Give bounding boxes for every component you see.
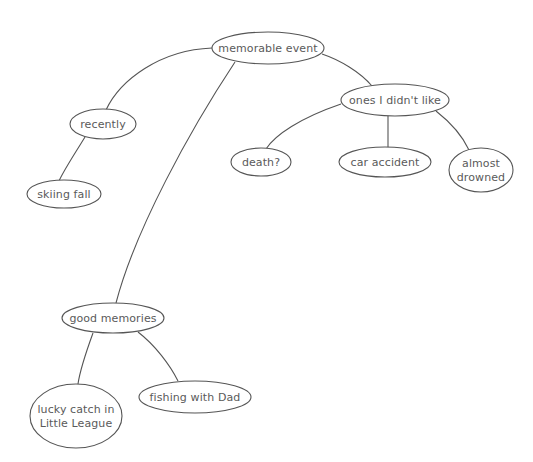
- node-label: ones I didn't like: [349, 94, 441, 107]
- node-ellipse: [30, 384, 122, 448]
- node-memorable: memorable event: [212, 32, 324, 64]
- edge-memorable-recently: [106, 48, 212, 110]
- edge-good-lucky: [78, 333, 93, 384]
- node-lucky: lucky catch inLittle League: [30, 384, 122, 448]
- diagram-svg: memorable eventrecentlyskiing fallones I…: [0, 0, 533, 462]
- edge-didnt-drowned: [436, 111, 469, 150]
- node-car: car accident: [339, 147, 431, 177]
- node-label: Little League: [40, 417, 113, 430]
- node-label: lucky catch in: [37, 403, 114, 416]
- node-skiing: skiing fall: [27, 180, 101, 208]
- node-death: death?: [231, 148, 291, 176]
- edge-memorable-didnt: [322, 54, 372, 86]
- node-didnt: ones I didn't like: [341, 84, 449, 116]
- nodes-layer: memorable eventrecentlyskiing fallones I…: [27, 32, 513, 448]
- edge-memorable-good: [116, 62, 235, 303]
- node-label: car accident: [351, 156, 421, 169]
- cluster-diagram: memorable eventrecentlyskiing fallones I…: [0, 0, 533, 462]
- node-label: good memories: [69, 312, 156, 325]
- node-label: skiing fall: [37, 188, 91, 201]
- node-label: almost: [462, 157, 500, 170]
- node-drowned: almostdrowned: [449, 148, 513, 192]
- node-good: good memories: [62, 303, 164, 333]
- edge-didnt-death: [266, 104, 341, 149]
- node-label: memorable event: [218, 42, 318, 55]
- edge-good-fishing: [138, 332, 178, 381]
- node-label: fishing with Dad: [150, 391, 241, 404]
- node-label: recently: [80, 118, 126, 131]
- edge-recently-skiing: [59, 137, 85, 181]
- node-recently: recently: [70, 109, 136, 139]
- node-fishing: fishing with Dad: [139, 381, 251, 413]
- node-ellipse: [449, 148, 513, 192]
- node-label: drowned: [457, 171, 505, 184]
- node-label: death?: [242, 156, 280, 169]
